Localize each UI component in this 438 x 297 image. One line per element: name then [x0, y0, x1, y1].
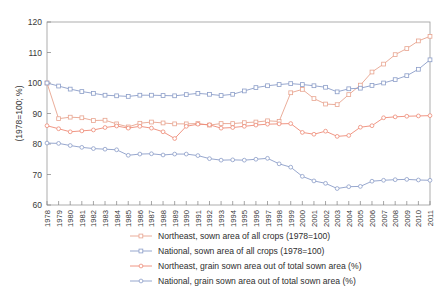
data-point [393, 178, 397, 182]
data-point [138, 152, 142, 156]
data-point [347, 134, 351, 138]
data-point [300, 131, 304, 135]
x-tick-label-2001: 2001 [310, 210, 319, 227]
x-tick-label-2002: 2002 [322, 210, 331, 227]
y-tick-label-100: 100 [28, 78, 42, 88]
data-point [150, 152, 154, 156]
x-tick-label-2010: 2010 [414, 210, 423, 227]
data-point [358, 125, 362, 129]
data-point [92, 91, 96, 95]
data-point [45, 124, 49, 128]
data-point [335, 187, 339, 191]
data-point [358, 184, 362, 188]
data-point [161, 94, 165, 98]
legend-marker-square [139, 234, 143, 238]
data-point [161, 130, 165, 134]
data-point [219, 94, 223, 98]
data-point [92, 119, 96, 123]
x-tick-label-1980: 1980 [66, 210, 75, 227]
legend-marker-circle [139, 279, 143, 283]
data-point [57, 127, 61, 131]
data-point [370, 84, 374, 88]
x-tick-label-2004: 2004 [345, 210, 354, 227]
x-tick-label-2007: 2007 [380, 210, 389, 227]
data-point [219, 122, 223, 126]
x-tick-label-1999: 1999 [287, 210, 296, 227]
data-point [266, 122, 270, 126]
x-tick-label-1978: 1978 [43, 210, 52, 227]
data-point [289, 82, 293, 86]
data-point [45, 141, 49, 145]
data-point [126, 126, 130, 130]
data-point [219, 126, 223, 130]
legend-label: Northeast, sown area of all crops (1978=… [158, 231, 330, 241]
data-point [289, 122, 293, 126]
x-tick-label-1979: 1979 [55, 210, 64, 227]
data-point [416, 39, 420, 43]
data-point [382, 62, 386, 66]
legend-label: National, sown area of all crops (1978=1… [158, 246, 325, 256]
data-point [103, 93, 107, 97]
x-tick-label-1985: 1985 [124, 210, 133, 227]
data-point [150, 126, 154, 130]
data-point [126, 153, 130, 157]
data-point [184, 124, 188, 128]
data-point [68, 115, 72, 119]
plot-frame [47, 22, 430, 205]
data-point [173, 137, 177, 141]
data-point [196, 122, 200, 126]
data-point [103, 147, 107, 151]
data-point [289, 165, 293, 169]
series-layer [45, 34, 432, 190]
data-point [138, 93, 142, 97]
legend-item-1[interactable]: National, sown area of all crops (1978=1… [130, 246, 325, 256]
y-tick-label-90: 90 [33, 109, 43, 119]
data-point [324, 181, 328, 185]
data-point [428, 178, 432, 182]
chart-figure: 12011010090807060(1978=100; %)1978197919… [0, 0, 438, 297]
data-point [80, 129, 84, 133]
data-point [428, 114, 432, 118]
data-point [161, 153, 165, 157]
data-point [173, 122, 177, 126]
x-tick-label-2005: 2005 [356, 210, 365, 227]
x-tick-label-1995: 1995 [240, 210, 249, 227]
data-point [184, 152, 188, 156]
data-point [242, 89, 246, 93]
data-point [231, 122, 235, 126]
data-point [173, 152, 177, 156]
legend-label: National, grain sown area out of total s… [158, 276, 356, 286]
x-tick-label-1987: 1987 [147, 210, 156, 227]
legend-item-2[interactable]: Northeast, grain sown area out of total … [130, 261, 362, 271]
data-point [300, 174, 304, 178]
data-point [196, 154, 200, 158]
data-point [254, 157, 258, 161]
data-point [68, 87, 72, 91]
series-line-1 [47, 60, 430, 97]
data-point [80, 90, 84, 94]
data-point [382, 116, 386, 120]
legend-item-3[interactable]: National, grain sown area out of total s… [130, 276, 356, 286]
x-tick-label-1997: 1997 [264, 210, 273, 227]
data-point [289, 91, 293, 95]
data-point [254, 123, 258, 127]
data-point [370, 124, 374, 128]
x-tick-label-2011: 2011 [426, 210, 435, 226]
data-point [231, 126, 235, 130]
data-point [138, 124, 142, 128]
data-point [393, 78, 397, 82]
data-point [312, 97, 316, 101]
y-tick-label-60: 60 [33, 200, 43, 210]
data-point [324, 129, 328, 133]
y-tick-label-110: 110 [28, 48, 42, 58]
axis-layer: 12011010090807060(1978=100; %)1978197919… [14, 17, 435, 227]
data-point [126, 95, 130, 99]
x-tick-label-1981: 1981 [78, 210, 87, 227]
data-point [416, 67, 420, 71]
data-point [416, 178, 420, 182]
legend-label: Northeast, grain sown area out of total … [158, 261, 362, 271]
data-point [428, 58, 432, 62]
x-tick-label-2008: 2008 [391, 210, 400, 227]
legend-item-0[interactable]: Northeast, sown area of all crops (1978=… [130, 231, 330, 241]
data-point [92, 128, 96, 132]
